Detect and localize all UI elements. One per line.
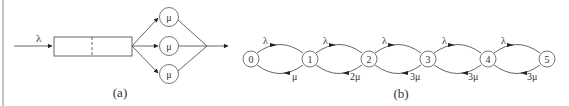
merge-line-top	[178, 20, 207, 46]
backward-label-0: μ	[292, 71, 297, 82]
backward-label-1: 2μ	[350, 71, 360, 82]
backward-arrowhead	[461, 71, 468, 75]
server-3-label: μ	[166, 69, 171, 80]
figure-a: λ μ μ μ (a)	[14, 8, 228, 101]
state-3-label: 3	[426, 54, 431, 65]
route-arrow-bot	[132, 46, 158, 73]
server-2-label: μ	[166, 41, 171, 52]
figure-b: 0 1 2 3 4 5 λ λ λ λ λ	[243, 35, 555, 101]
forward-arrowhead	[388, 43, 395, 47]
backward-arrowhead	[283, 71, 290, 75]
caption-b: (b)	[393, 86, 408, 101]
backward-arrowhead	[520, 71, 527, 75]
arrival-label: λ	[36, 32, 42, 44]
route-arrow-top	[132, 18, 158, 46]
state-1-label: 1	[308, 54, 313, 65]
forward-arrowhead	[507, 43, 514, 47]
forward-label-0: λ	[263, 35, 268, 46]
backward-arrowhead	[342, 71, 349, 75]
state-4-label: 4	[486, 54, 491, 65]
forward-label-2: λ	[382, 35, 387, 46]
merge-line-bot	[178, 46, 207, 71]
backward-label-3: 3μ	[468, 71, 478, 82]
forward-label-4: λ	[501, 35, 506, 46]
backward-label-2: 3μ	[410, 71, 420, 82]
caption-a: (a)	[113, 85, 127, 100]
forward-arrowhead	[270, 43, 277, 47]
server-1-label: μ	[166, 12, 171, 23]
forward-arrowhead	[448, 43, 455, 47]
forward-label-1: λ	[323, 35, 328, 46]
backward-arrowhead	[401, 71, 408, 75]
queue-buffer	[54, 37, 132, 56]
state-2-label: 2	[367, 54, 372, 65]
queue-diagram: λ μ μ μ (a) 0 1 2 3 4 5	[0, 0, 569, 106]
forward-arrowhead	[329, 43, 336, 47]
state-5-label: 5	[545, 54, 550, 65]
state-0-label: 0	[249, 54, 254, 65]
forward-label-3: λ	[442, 35, 447, 46]
backward-label-4: 3μ	[527, 71, 537, 82]
